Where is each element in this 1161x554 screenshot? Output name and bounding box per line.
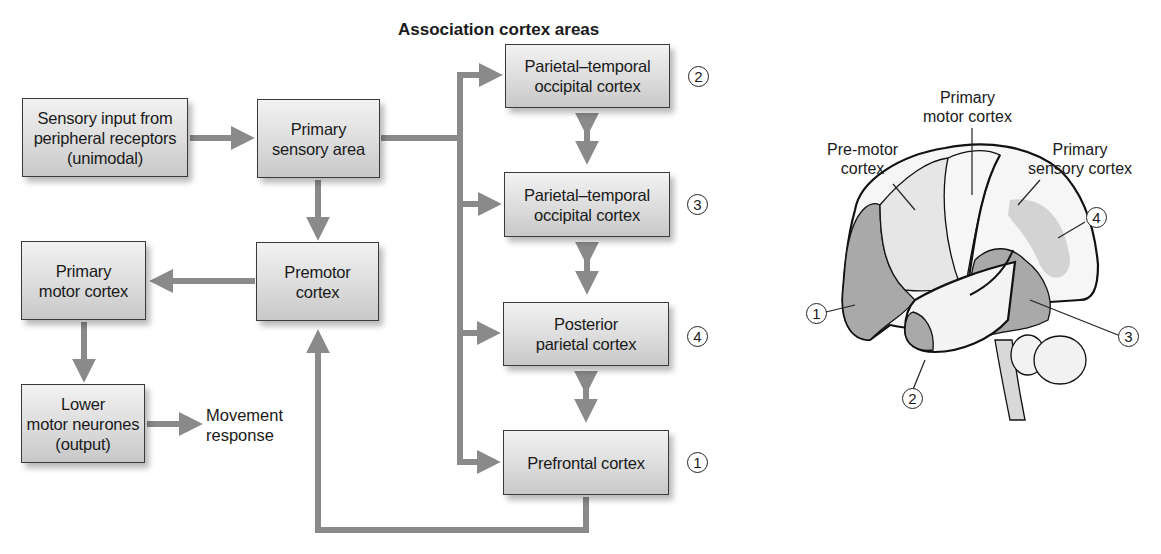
brain-marker-3: 3 xyxy=(1118,326,1139,347)
brain-label-primary-motor: Primary motor cortex xyxy=(923,88,1012,126)
brain-marker-1: 1 xyxy=(806,303,827,324)
brain-label-primary-sensory: Primary sensory cortex xyxy=(1028,140,1132,178)
brain-marker-2: 2 xyxy=(902,388,923,409)
brain-illustration xyxy=(0,0,1161,554)
brain-label-premotor: Pre-motor cortex xyxy=(827,140,898,178)
brain-marker-4: 4 xyxy=(1086,207,1107,228)
